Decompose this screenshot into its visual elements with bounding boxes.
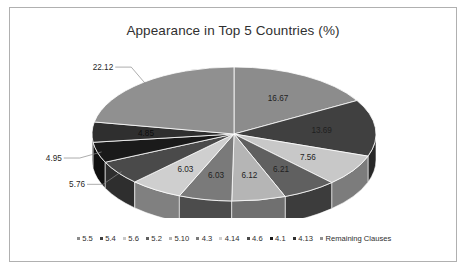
legend-item-label: 5.2	[151, 234, 162, 243]
legend-swatch-icon	[100, 237, 103, 240]
pie-slice-value-label: 13.69	[311, 126, 332, 135]
legend-swatch-icon	[146, 237, 149, 240]
legend-item[interactable]: 4.6	[247, 234, 263, 243]
pie-slice-value-label: 4.85	[138, 129, 154, 138]
legend-swatch-icon	[293, 237, 296, 240]
pie-slice-value-label: 5.76	[69, 180, 85, 189]
legend-swatch-icon	[123, 237, 126, 240]
pie-slice-value-label: 6.12	[241, 171, 257, 180]
chart-frame: Appearance in Top 5 Countries (%) 16.671…	[9, 7, 457, 262]
legend-item[interactable]: 4.13	[293, 234, 313, 243]
legend-item[interactable]: 4.1	[270, 234, 286, 243]
legend-item-label: 5.10	[174, 234, 189, 243]
legend-item-label: 5.6	[128, 234, 139, 243]
pie-slice-value-label: 4.95	[46, 154, 62, 163]
legend-swatch-icon	[219, 237, 222, 240]
legend-swatch-icon	[196, 237, 199, 240]
legend-item-label: 5.5	[82, 234, 93, 243]
legend-item-label: 4.14	[225, 234, 240, 243]
legend-item[interactable]: 5.2	[146, 234, 162, 243]
pie-slice-value-label: 6.03	[208, 171, 224, 180]
legend-item[interactable]: 4.14	[219, 234, 239, 243]
pie-slice-value-label: 6.21	[273, 165, 289, 174]
legend-item[interactable]: 5.10	[169, 234, 189, 243]
pie-slice[interactable]	[94, 67, 234, 134]
pie-top-faces	[92, 67, 376, 201]
pie-slice-value-label: 7.56	[300, 153, 316, 162]
legend-item-label: 4.3	[202, 234, 213, 243]
legend-swatch-icon	[169, 237, 172, 240]
pie-slice-value-label: 22.12	[93, 63, 114, 72]
pie-chart[interactable]: 16.6713.697.566.216.126.036.035.764.954.…	[10, 48, 458, 218]
legend-item[interactable]: 5.4	[100, 234, 116, 243]
legend-item[interactable]: Remaining Clauses	[320, 234, 391, 243]
legend-item-label: Remaining Clauses	[325, 234, 391, 243]
pie-label-leader-line	[115, 67, 146, 84]
legend-item-label: 4.6	[252, 234, 263, 243]
pie-slice-value-label: 6.03	[177, 165, 193, 174]
legend-swatch-icon	[77, 237, 80, 240]
legend-swatch-icon	[270, 237, 273, 240]
legend-item-label: 5.4	[105, 234, 116, 243]
page-title: Appearance in Top 5 Countries (%)	[10, 23, 456, 38]
legend-item[interactable]: 4.3	[196, 234, 212, 243]
legend-item[interactable]: 5.5	[77, 234, 93, 243]
legend-swatch-icon	[320, 237, 323, 240]
chart-legend: 5.55.45.65.25.104.34.144.64.14.13Remaini…	[10, 234, 458, 243]
legend-item-label: 4.1	[275, 234, 286, 243]
pie-chart-svg[interactable]: 16.6713.697.566.216.126.036.035.764.954.…	[10, 48, 458, 218]
legend-swatch-icon	[247, 237, 250, 240]
legend-item-label: 4.13	[298, 234, 313, 243]
pie-slice-value-label: 16.67	[268, 94, 289, 103]
legend-item[interactable]: 5.6	[123, 234, 139, 243]
